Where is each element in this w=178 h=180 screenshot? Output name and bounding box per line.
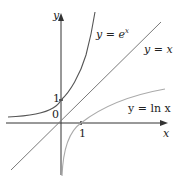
y-tick-label: 1 — [53, 93, 60, 104]
label-exp-text: y = e — [96, 28, 125, 41]
origin-label: 0 — [52, 109, 59, 120]
y-axis-label: y — [53, 10, 59, 21]
label-ln: y = ln x — [128, 103, 171, 114]
label-exp: y = ex — [96, 28, 129, 40]
curve-exp — [8, 12, 95, 117]
x-tick-label: 1 — [79, 128, 86, 139]
curve-identity — [11, 22, 161, 170]
x-axis-label: x — [163, 128, 169, 139]
label-exp-sup: x — [125, 27, 129, 35]
x-axis-arrow-icon — [160, 120, 168, 126]
label-identity: y = x — [144, 44, 173, 55]
graph-canvas — [0, 0, 178, 180]
